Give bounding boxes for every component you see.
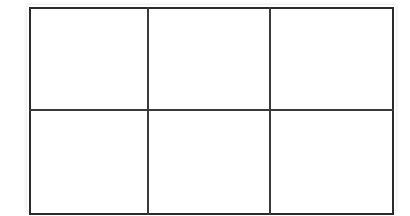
grid-cell-label bbox=[149, 9, 268, 109]
grid-cell-label bbox=[271, 111, 392, 213]
grid-cell-r1c1[interactable] bbox=[30, 8, 148, 110]
grid-cell-label bbox=[149, 111, 268, 213]
table-row bbox=[30, 110, 393, 214]
grid-cell-r1c3[interactable] bbox=[270, 8, 393, 110]
table-row bbox=[30, 8, 393, 110]
grid-cell-r2c2[interactable] bbox=[148, 110, 269, 214]
grid-cell-r2c3[interactable] bbox=[270, 110, 393, 214]
page-canvas bbox=[0, 0, 410, 216]
grid-cell-label bbox=[31, 111, 147, 213]
grid-cell-label bbox=[31, 9, 147, 109]
grid-body bbox=[30, 8, 393, 214]
grid-cell-label bbox=[271, 9, 392, 109]
grid-cell-r2c1[interactable] bbox=[30, 110, 148, 214]
grid-table bbox=[29, 7, 394, 215]
grid-cell-r1c2[interactable] bbox=[148, 8, 269, 110]
